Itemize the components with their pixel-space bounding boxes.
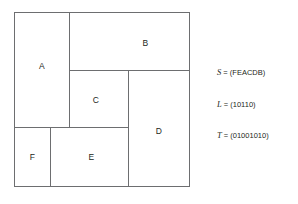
block-label-a: A xyxy=(39,62,45,71)
equation-list: S = (FEACDB) L = (10110) T = (01001010) xyxy=(217,68,297,140)
floorplan-block-d: D xyxy=(128,70,190,187)
equation-body-t: = (01001010) xyxy=(222,131,269,140)
block-label-b: B xyxy=(143,39,149,48)
equation-sequence-s: S = (FEACDB) xyxy=(217,68,297,77)
equation-body-l: = (10110) xyxy=(222,100,256,109)
equation-body-s: = (FEACDB) xyxy=(221,68,265,77)
block-label-c: C xyxy=(93,96,99,105)
figure-root: A B C D E F S = (FEACDB) L = (10110) T =… xyxy=(0,0,298,204)
floorplan-block-b: B xyxy=(69,12,190,71)
block-label-e: E xyxy=(89,153,95,162)
floorplan-block-f: F xyxy=(14,127,51,187)
floorplan-diagram: A B C D E F xyxy=(14,12,190,187)
floorplan-block-e: E xyxy=(50,127,129,187)
floorplan-block-a: A xyxy=(14,12,70,128)
equation-sequence-t: T = (01001010) xyxy=(217,131,297,140)
equation-sequence-l: L = (10110) xyxy=(217,100,297,109)
floorplan-block-c: C xyxy=(69,70,129,128)
block-label-d: D xyxy=(156,127,162,136)
block-label-f: F xyxy=(30,153,35,162)
